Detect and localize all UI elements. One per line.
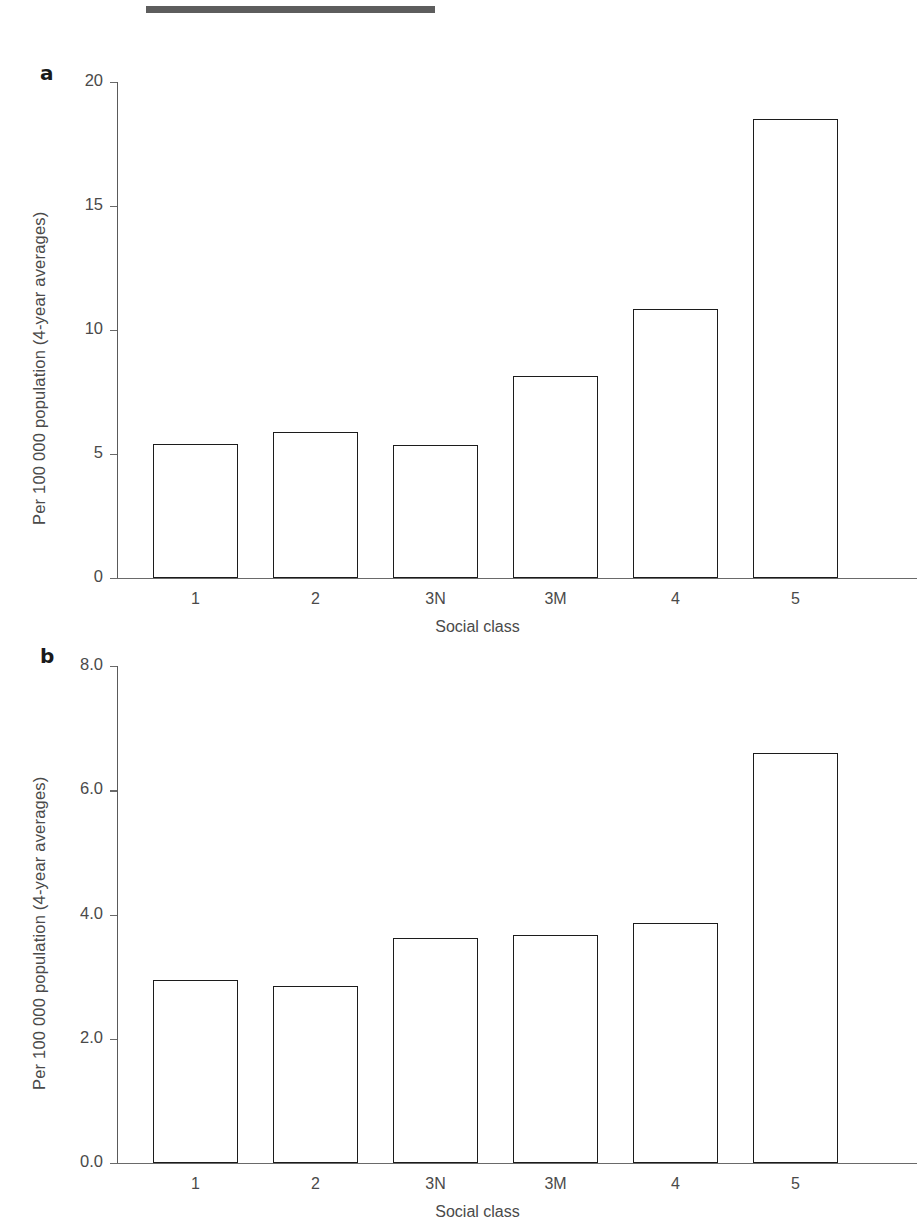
- x-tick-label-a-3M: 3M: [493, 590, 618, 608]
- y-tick-label-b-4: 8.0: [45, 655, 103, 674]
- y-tick-label-b-0: 0.0: [45, 1152, 103, 1171]
- x-tick-label-a-3N: 3N: [373, 590, 498, 608]
- y-tick-label-b-1: 2.0: [45, 1028, 103, 1047]
- y-tick-b-3: [110, 790, 117, 791]
- y-tick-a-2: [110, 330, 117, 331]
- x-tick-label-b-3M: 3M: [493, 1175, 618, 1193]
- plot-area-a: 05101520123N3M45Social class: [117, 82, 917, 578]
- y-tick-label-a-2: 10: [45, 319, 103, 338]
- bar-a-4: [633, 309, 718, 578]
- x-tick-label-b-2: 2: [253, 1175, 378, 1193]
- x-tick-label-a-2: 2: [253, 590, 378, 608]
- x-tick-label-b-5: 5: [733, 1175, 858, 1193]
- y-tick-b-4: [110, 666, 117, 667]
- x-axis-title-b: Social class: [117, 1203, 838, 1221]
- y-tick-label-a-1: 5: [45, 443, 103, 462]
- bar-b-2: [273, 986, 358, 1163]
- y-tick-a-4: [110, 82, 117, 83]
- y-tick-a-1: [110, 454, 117, 455]
- y-tick-label-a-0: 0: [45, 567, 103, 586]
- bar-a-3M: [513, 376, 598, 578]
- y-tick-label-b-2: 4.0: [45, 904, 103, 923]
- bar-b-3N: [393, 938, 478, 1163]
- x-axis-line-a: [117, 578, 917, 579]
- x-axis-title-a: Social class: [117, 618, 838, 636]
- y-axis-line-a: [117, 82, 118, 578]
- bar-b-1: [153, 980, 238, 1163]
- bar-b-3M: [513, 935, 598, 1163]
- chart-panel-a: a Per 100 000 population (4-year average…: [0, 55, 923, 640]
- plot-area-b: 0.02.04.06.08.0123N3M45Social class: [117, 666, 917, 1163]
- y-tick-a-3: [110, 206, 117, 207]
- y-tick-b-1: [110, 1039, 117, 1040]
- y-tick-a-0: [110, 578, 117, 579]
- y-tick-label-a-4: 20: [45, 71, 103, 90]
- x-tick-label-b-4: 4: [613, 1175, 738, 1193]
- top-rule: [146, 6, 435, 13]
- x-tick-label-a-5: 5: [733, 590, 858, 608]
- y-axis-line-b: [117, 666, 118, 1163]
- y-tick-label-b-3: 6.0: [45, 779, 103, 798]
- y-tick-b-0: [110, 1163, 117, 1164]
- x-tick-label-b-1: 1: [133, 1175, 258, 1193]
- x-tick-label-a-1: 1: [133, 590, 258, 608]
- bar-a-1: [153, 444, 238, 578]
- x-tick-label-b-3N: 3N: [373, 1175, 498, 1193]
- y-axis-label-a: Per 100 000 population (4-year averages): [30, 212, 49, 525]
- y-tick-label-a-3: 15: [45, 195, 103, 214]
- x-tick-label-a-4: 4: [613, 590, 738, 608]
- chart-panel-b: b Per 100 000 population (4-year average…: [0, 640, 923, 1221]
- bar-b-4: [633, 923, 718, 1163]
- x-axis-line-b: [117, 1163, 917, 1164]
- bar-a-3N: [393, 445, 478, 578]
- bar-a-5: [753, 119, 838, 578]
- bar-a-2: [273, 432, 358, 578]
- bar-b-5: [753, 753, 838, 1163]
- y-tick-b-2: [110, 915, 117, 916]
